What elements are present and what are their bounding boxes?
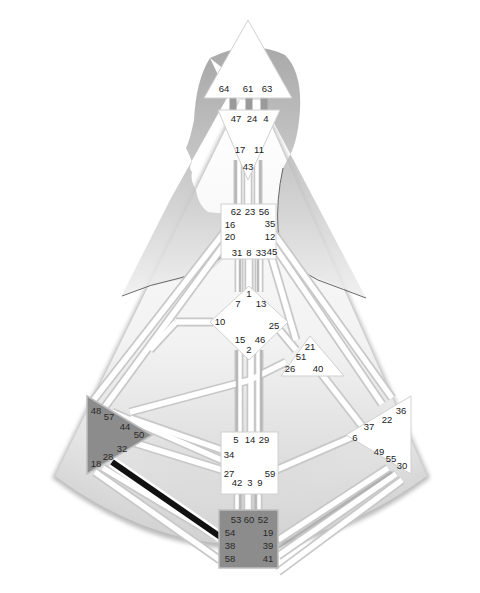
gate-59: 59	[265, 468, 276, 479]
gate-36: 36	[396, 405, 407, 416]
gate-50: 50	[134, 429, 145, 440]
gate-23: 23	[245, 206, 256, 217]
gate-53: 53	[231, 514, 242, 525]
gate-49: 49	[374, 446, 385, 457]
gate-42: 42	[232, 477, 243, 488]
gate-46: 46	[255, 334, 266, 345]
gate-48: 48	[91, 405, 102, 416]
gate-62: 62	[231, 206, 242, 217]
gate-7: 7	[235, 298, 240, 309]
gate-45: 45	[267, 246, 278, 257]
gate-26: 26	[285, 363, 296, 374]
gate-37: 37	[364, 421, 375, 432]
gate-51: 51	[296, 351, 307, 362]
gate-24: 24	[247, 113, 258, 124]
gate-52: 52	[258, 514, 269, 525]
gate-34: 34	[224, 449, 235, 460]
gate-20: 20	[225, 231, 236, 242]
gate-9: 9	[257, 477, 262, 488]
gate-19: 19	[263, 527, 274, 538]
gate-3: 3	[247, 477, 252, 488]
bodygraph-svg: 64 61 63 47 24 4 17 11 43 62 23 56 16 35…	[0, 0, 480, 593]
gate-12: 12	[265, 231, 276, 242]
gate-4: 4	[263, 113, 268, 124]
gate-30: 30	[397, 460, 408, 471]
gate-14: 14	[245, 434, 256, 445]
gate-22: 22	[382, 414, 393, 425]
gate-63: 63	[262, 83, 273, 94]
gate-44: 44	[120, 421, 131, 432]
gate-13: 13	[256, 298, 267, 309]
gate-11: 11	[254, 144, 264, 155]
gate-32: 32	[117, 443, 128, 454]
center-throat: 62 23 56 16 35 20 12 31 8 33 45	[221, 204, 277, 259]
gate-38: 38	[225, 540, 236, 551]
center-root: 53 60 52 54 19 38 39 58 41	[219, 510, 278, 568]
gate-15: 15	[235, 334, 246, 345]
gate-60: 60	[244, 514, 255, 525]
gate-56: 56	[259, 206, 270, 217]
gate-2: 2	[246, 344, 251, 355]
gate-18: 18	[91, 458, 102, 469]
gate-57: 57	[104, 411, 115, 422]
center-sacral: 5 14 29 34 27 59 42 3 9	[221, 432, 278, 494]
gate-41: 41	[263, 553, 274, 564]
gate-43: 43	[243, 161, 254, 172]
gate-40: 40	[313, 363, 324, 374]
gate-6: 6	[352, 432, 357, 443]
gate-10: 10	[215, 316, 226, 327]
bodygraph-diagram: 64 61 63 47 24 4 17 11 43 62 23 56 16 35…	[0, 0, 480, 593]
gate-64: 64	[219, 83, 230, 94]
gate-54: 54	[225, 527, 236, 538]
gate-31: 31	[232, 247, 243, 258]
gate-29: 29	[259, 434, 270, 445]
gate-5: 5	[233, 434, 238, 445]
gate-8: 8	[246, 247, 251, 258]
gate-25: 25	[269, 320, 280, 331]
gate-1: 1	[246, 288, 251, 299]
gate-61: 61	[243, 83, 254, 94]
gate-47: 47	[231, 113, 242, 124]
gate-16: 16	[225, 219, 236, 230]
gate-55: 55	[386, 453, 397, 464]
gate-35: 35	[265, 218, 276, 229]
gate-58: 58	[225, 553, 236, 564]
gate-17: 17	[235, 144, 246, 155]
gate-28: 28	[103, 451, 114, 462]
gate-21: 21	[305, 341, 316, 352]
gate-39: 39	[263, 540, 274, 551]
gate-33: 33	[256, 247, 267, 258]
